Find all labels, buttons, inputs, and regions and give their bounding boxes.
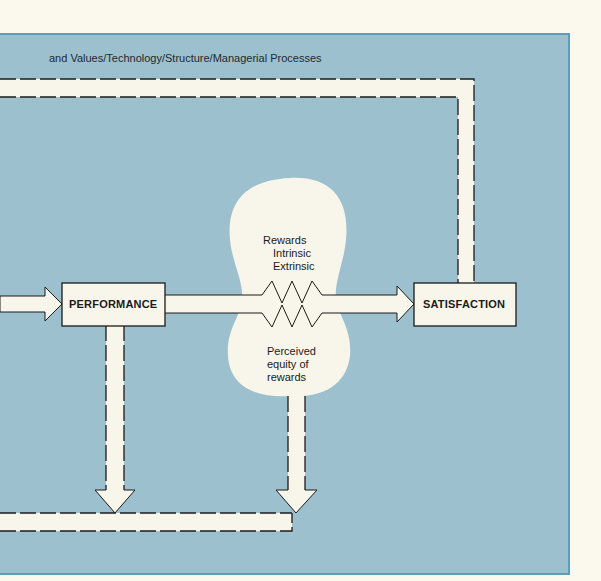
rewards-extrinsic: Extrinsic — [273, 259, 315, 273]
equity-line-1: Perceived — [267, 344, 316, 358]
equity-line-3: rewards — [267, 370, 306, 384]
performance-label: PERFORMANCE — [69, 298, 157, 310]
diagram-caption: and Values/Technology/Structure/Manageri… — [49, 52, 322, 64]
input-arrow — [0, 287, 62, 321]
rewards-intrinsic: Intrinsic — [273, 246, 311, 260]
performance-to-satisfaction-arrow — [165, 281, 414, 327]
equity-down-arrow — [276, 396, 317, 513]
diagram-graphics — [0, 0, 601, 581]
performance-down-arrow — [95, 325, 135, 513]
bottom-feedback-band — [0, 513, 292, 531]
rewards-title: Rewards — [263, 233, 306, 247]
satisfaction-label: SATISFACTION — [423, 298, 505, 310]
equity-line-2: equity of — [267, 357, 309, 371]
